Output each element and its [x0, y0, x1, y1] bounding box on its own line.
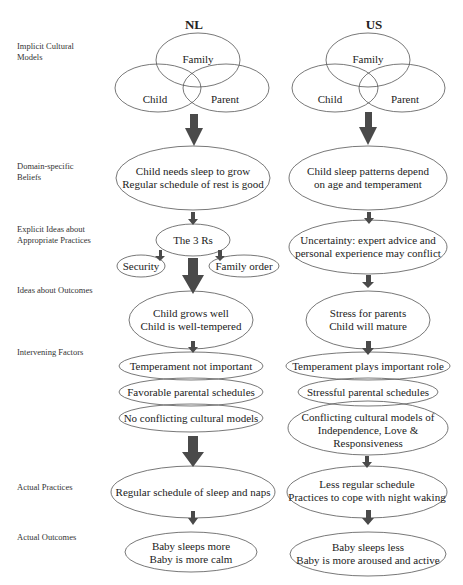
us-arrow-small-5: [362, 510, 374, 525]
row-label-actual-practices: Actual Practices: [17, 482, 107, 493]
nl-arrow-small-3: [188, 511, 198, 525]
us-factor-1-text: Temperament plays important role: [286, 359, 450, 373]
us-arrow-1: [359, 112, 377, 145]
row-label-ideas-outcomes: Ideas about Outcomes: [17, 285, 107, 296]
row-label-intervening-factors: Intervening Factors: [17, 347, 107, 358]
column-title-us: US: [344, 17, 404, 33]
row-label-implicit-models: Implicit Cultural Models: [17, 41, 92, 63]
nl-three-rs-text: The 3 Rs: [156, 232, 230, 248]
us-factor-2-text: Stressful parental schedules: [298, 385, 438, 399]
nl-arrow-big-3: [182, 436, 204, 467]
row-label-domain-beliefs: Domain-specific Beliefs: [17, 161, 77, 183]
nl-beliefs-text: Child needs sleep to grow Regular schedu…: [116, 160, 270, 196]
nl-arrow-big-2: [182, 258, 204, 294]
us-factor-3-text: Conflicting cultural models of Independe…: [288, 408, 448, 452]
nl-outcomes-text: Baby sleeps more Baby is more calm: [125, 538, 257, 568]
nl-security-text: Security: [117, 259, 165, 273]
us-venn-family-label: Family: [340, 52, 396, 66]
us-arrow-small-2: [362, 275, 374, 288]
us-venn-parent-label: Parent: [380, 92, 430, 106]
us-explicit-text: Uncertainty: expert advice and personal …: [289, 231, 447, 263]
nl-venn-parent-label: Parent: [200, 92, 250, 106]
us-outcomes-text: Baby sleeps less Baby is more aroused an…: [290, 539, 446, 569]
us-arrow-small-1: [364, 212, 374, 224]
row-label-actual-outcomes: Actual Outcomes: [17, 532, 107, 543]
nl-arrow-small-2: [188, 341, 198, 353]
nl-factor-2-text: Favorable parental schedules: [119, 385, 263, 399]
nl-practices-text: Regular schedule of sleep and naps: [111, 485, 275, 499]
row-label-explicit-ideas: Explicit Ideas about Appropriate Practic…: [17, 224, 112, 246]
nl-venn-family-label: Family: [170, 52, 226, 66]
nl-factor-3-text: No conflicting cultural models: [119, 411, 263, 425]
nl-factor-1-text: Temperament not important: [119, 359, 263, 373]
nl-venn-child-label: Child: [130, 92, 180, 106]
column-title-nl: NL: [164, 17, 224, 33]
us-arrow-small-3: [362, 341, 374, 355]
nl-family-order-text: Family order: [209, 259, 279, 273]
us-outcomes-ideas-text: Stress for parents Child will mature: [306, 303, 430, 337]
us-beliefs-text: Child sleep patterns depend on age and t…: [289, 160, 447, 196]
us-practices-text: Less regular schedule Practices to cope …: [287, 476, 447, 506]
us-venn-child-label: Child: [305, 92, 355, 106]
nl-arrow-1: [185, 114, 203, 146]
nl-outcomes-ideas-text: Child grows well Child is well-tempered: [129, 303, 253, 337]
nl-arrow-small-1: [188, 212, 198, 225]
